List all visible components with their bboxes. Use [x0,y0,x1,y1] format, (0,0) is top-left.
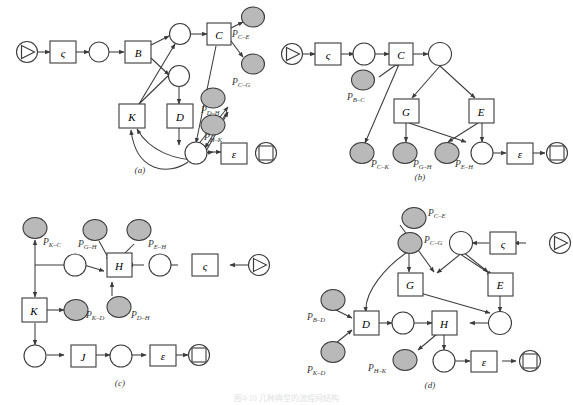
panel-label-b: (b) [400,172,440,182]
panel-label-a: (a) [120,165,160,175]
panel-d-transition-H[interactable]: H [432,311,457,335]
panel-c: H ς K J ε [22,218,270,368]
panel-b-label-G: G [402,106,410,118]
panel-b-transition-epsilon[interactable]: ε [507,143,533,164]
panel-d-place-4[interactable] [433,350,455,372]
panel-b-place-label-EH: PE–H [454,159,474,170]
svg-text:PG–H: PG–H [412,159,433,170]
panel-a-transition-B[interactable]: B [125,41,151,63]
panel-a-label-B: B [135,47,142,59]
panel-d-transition-E[interactable]: E [488,273,513,296]
panel-a-label-varsigma: ς [61,47,66,59]
panel-c-shaded-place-KD[interactable] [64,300,88,321]
svg-text:PC–G: PC–G [423,235,443,246]
panel-a-label-K: K [127,111,136,123]
panel-d-label-E: E [496,279,504,291]
svg-text:PK–D: PK–D [306,365,326,376]
panel-a-shaded-place-CG[interactable] [242,54,265,74]
panel-b-shaded-place-BC[interactable] [352,70,375,90]
panel-d-start-node[interactable] [550,233,571,254]
figure-canvas: ς B C K D ε [0,0,573,405]
svg-text:PC–G: PC–G [231,77,251,88]
svg-text:PC–K: PC–K [370,159,390,170]
panel-b-place-1[interactable] [353,43,375,65]
svg-text:PB–D: PB–D [306,312,325,323]
panel-a-transition-D[interactable]: D [167,104,193,128]
panel-d-place-2[interactable] [392,312,414,334]
panel-c-place-label-DH: PD–H [130,310,151,321]
panel-d-place-1[interactable] [450,232,473,255]
panel-d-shaded-place-CG[interactable] [398,233,422,254]
panel-d-transition-D[interactable]: D [354,311,379,335]
panel-c-place-label-KC: PK–C [42,237,62,248]
panel-c-start-node[interactable] [249,255,270,276]
panel-a-place-2[interactable] [170,24,191,45]
svg-text:PE–H: PE–H [147,239,167,250]
panel-c-place-label-EH: PE–H [147,239,167,250]
panel-b-transition-varsigma[interactable]: ς [315,43,341,65]
panel-c-transition-K[interactable]: K [22,298,47,322]
panel-d-place-label-CG: PC–G [423,235,443,246]
panel-b-transition-C[interactable]: C [389,43,413,65]
panel-d-end-node[interactable] [520,351,541,372]
panel-a-end-node[interactable] [256,143,277,164]
panel-c-place-2[interactable] [149,254,171,276]
panel-c-place-3[interactable] [24,345,46,367]
panel-c-shaded-place-DH[interactable] [107,297,131,318]
panel-c-shaded-place-EH[interactable] [127,220,151,241]
panel-d-place-label-HK: PH–K [367,363,387,374]
panel-c-place-label-KD: PK–D [85,310,105,321]
panel-d-transition-epsilon[interactable]: ε [471,351,497,372]
panel-d-shaded-place-BD[interactable] [321,290,345,311]
panel-c-place-4[interactable] [110,345,132,367]
panel-b-place-label-BC: PB–C [346,92,365,103]
figure-caption: 图4-10 几种典型的流程网结构 [0,392,573,403]
panel-c-transition-J[interactable]: J [71,345,96,367]
panel-d-shaded-place-HK[interactable] [393,350,417,371]
panel-c-shaded-place-KC[interactable] [23,218,47,239]
panel-b-end-node[interactable] [547,143,568,164]
panel-b-place-2[interactable] [429,43,452,66]
panel-b-transition-G[interactable]: G [394,99,419,123]
panel-b-place-label-GH: PG–H [412,159,433,170]
panel-b-transition-E[interactable]: E [469,99,494,123]
panel-a-transition-K[interactable]: K [119,104,145,128]
panel-b: ς C G E ε [282,43,568,165]
panel-d-shaded-place-CE[interactable] [402,208,426,229]
panel-a-start-node[interactable] [17,42,38,63]
svg-text:PC–E: PC–E [427,208,446,219]
panel-a-place-4[interactable] [185,142,207,164]
panel-a-place-label-CE: PC–E [231,29,250,40]
panel-b-label-C: C [397,49,405,61]
panel-a-transition-epsilon[interactable]: ε [221,143,247,164]
panel-b-place-3[interactable] [471,142,493,164]
panel-c-shaded-place-GH[interactable] [83,220,107,241]
panel-d-shaded-place-KD[interactable] [321,342,345,363]
panel-a-shaded-place-CE[interactable] [242,7,265,27]
panel-c-transition-H[interactable]: H [107,253,132,277]
panel-b-start-node[interactable] [282,44,303,65]
panel-d-place-label-CE: PC–E [427,208,446,219]
svg-text:PH–K: PH–K [367,363,387,374]
panel-c-end-node[interactable] [189,345,210,366]
panel-a-label-D: D [175,111,184,123]
panel-c-transition-epsilon[interactable]: ε [150,345,176,366]
svg-text:PD–H: PD–H [130,310,151,321]
panel-a-place-1[interactable] [89,42,109,62]
panel-a-transition-C[interactable]: C [207,23,231,45]
panel-d-transition-G[interactable]: G [398,273,423,296]
panel-d-place-label-KD: PK–D [306,365,326,376]
panel-c-label-K: K [29,305,38,317]
panel-d-place-3[interactable] [489,312,512,335]
panel-a-place-3[interactable] [169,66,190,87]
panel-c-transition-varsigma[interactable]: ς [192,254,218,276]
panel-c-place-1[interactable] [64,254,86,276]
panel-a-transition-varsigma[interactable]: ς [50,41,76,63]
panel-b-label-E: E [477,106,485,118]
panel-b-place-label-CK: PC–K [370,159,390,170]
panel-a-place-label-CG: PC–G [231,77,251,88]
panel-label-d: (d) [410,380,450,390]
panel-d-place-label-BD: PB–D [306,312,325,323]
panel-d-transition-varsigma[interactable]: ς [490,232,516,254]
panel-b-edges [303,54,545,153]
